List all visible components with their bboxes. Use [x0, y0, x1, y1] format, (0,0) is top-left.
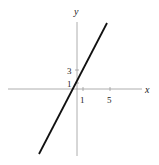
y-tick-label-3: 3 — [67, 66, 72, 76]
x-axis-label: x — [144, 84, 150, 95]
x-tick-label-5: 5 — [107, 95, 112, 105]
y-axis-label: y — [73, 6, 79, 17]
axes — [8, 22, 142, 156]
line-graph: x y 1 5 3 1 — [0, 0, 159, 165]
x-tick-label-1: 1 — [80, 95, 85, 105]
y-tick-label-1: 1 — [67, 79, 72, 89]
plotted-line — [39, 23, 107, 154]
labels: x y 1 5 3 1 — [67, 6, 150, 105]
